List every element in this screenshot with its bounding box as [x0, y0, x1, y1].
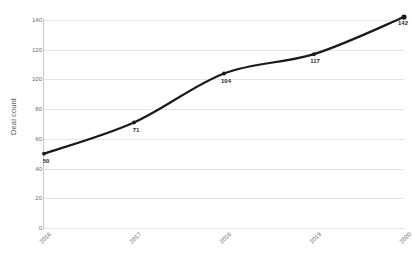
x-axis-tick-label: 2019 — [309, 231, 323, 245]
x-axis-tick-label: 2016 — [39, 231, 53, 245]
x-axis-tick-label: 2018 — [219, 231, 233, 245]
x-axis-tick-label: 2020 — [399, 231, 412, 245]
x-axis-tick-label: 2017 — [129, 231, 143, 245]
